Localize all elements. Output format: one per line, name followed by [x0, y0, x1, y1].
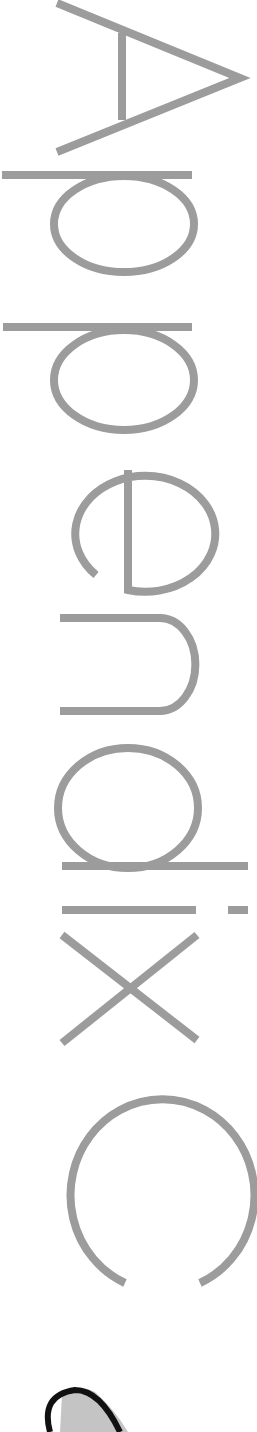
letter-e — [75, 470, 215, 592]
ornament-drawing — [48, 1388, 128, 1432]
appendix-heading-graphic — [0, 0, 257, 1432]
letter-x — [62, 935, 197, 1043]
letter-d — [58, 748, 248, 868]
letter-n — [60, 618, 195, 711]
book-page: Appendix C — [0, 0, 257, 1432]
letter-p-2 — [3, 327, 194, 430]
letter-c — [70, 1099, 254, 1283]
letter-a — [57, 3, 240, 152]
letter-p-1 — [2, 175, 194, 272]
